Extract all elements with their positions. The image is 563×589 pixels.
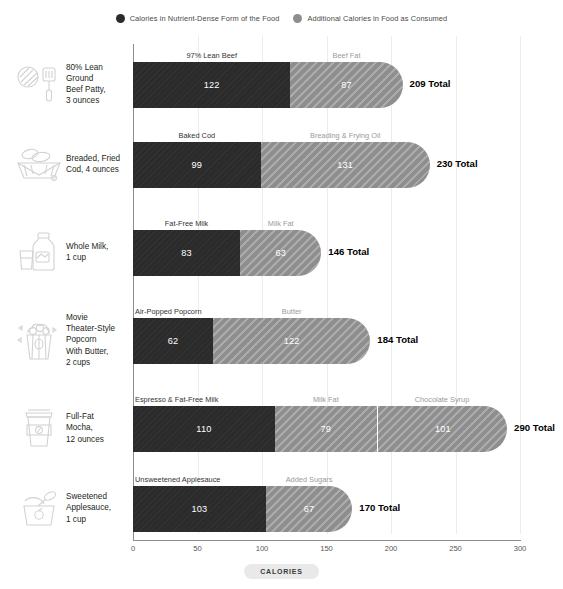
row-food-label: SweetenedApplesauce,1 cup bbox=[66, 468, 130, 548]
row-total-label: 209 Total bbox=[410, 78, 451, 89]
row-food-label: Whole Milk,1 cup bbox=[66, 212, 130, 292]
bar-segment[interactable]: 79 bbox=[275, 406, 377, 452]
stacked-bar[interactable]: 12287 bbox=[133, 62, 403, 108]
x-axis-title-label: CALORIES bbox=[244, 564, 319, 579]
segment-caption: Baked Cod bbox=[179, 131, 216, 140]
x-axis-title: CALORIES bbox=[0, 564, 563, 579]
segment-value: 87 bbox=[341, 80, 352, 90]
stacked-bar[interactable]: 10367 bbox=[133, 486, 352, 532]
chart-row: Breaded, FriedCod, 4 ouncesBaked CodBrea… bbox=[0, 124, 563, 204]
bar-segment[interactable]: 131 bbox=[261, 142, 430, 188]
segment-caption: Butter bbox=[282, 307, 302, 316]
segment-value: 131 bbox=[337, 160, 353, 170]
chart-row: Whole Milk,1 cupFat-Free MilkMilk Fat836… bbox=[0, 212, 563, 292]
segment-caption: Breading & Frying Oil bbox=[310, 131, 380, 140]
segment-value: 103 bbox=[191, 504, 207, 514]
bar-segment[interactable]: 83 bbox=[133, 230, 240, 276]
row-total-label: 184 Total bbox=[377, 334, 418, 345]
segment-value: 99 bbox=[192, 160, 203, 170]
bar-segment[interactable]: 99 bbox=[133, 142, 261, 188]
bar-segment[interactable]: 63 bbox=[240, 230, 321, 276]
legend-item-nutrient-dense: Calories in Nutrient-Dense Form of the F… bbox=[116, 14, 280, 23]
segment-value: 122 bbox=[204, 80, 220, 90]
segment-value: 79 bbox=[321, 424, 332, 434]
stacked-bar[interactable]: 8363 bbox=[133, 230, 321, 276]
segment-value: 63 bbox=[275, 248, 286, 258]
bar-segment[interactable]: 110 bbox=[133, 406, 275, 452]
row-food-label: Full-FatMocha,12 ounces bbox=[66, 388, 130, 468]
bar-segment[interactable]: 122 bbox=[133, 62, 290, 108]
popcorn-bucket-icon bbox=[12, 300, 66, 380]
milk-jug-glass-icon bbox=[12, 212, 66, 292]
chart-legend: Calories in Nutrient-Dense Form of the F… bbox=[0, 14, 563, 23]
row-food-label: MovieTheater-StylePopcornWith Butter,2 c… bbox=[66, 300, 130, 380]
legend-label: Additional Calories in Food as Consumed bbox=[307, 14, 447, 23]
chart-row: Full-FatMocha,12 ouncesEspresso & Fat-Fr… bbox=[0, 388, 563, 468]
segment-value: 83 bbox=[181, 248, 192, 258]
chart-row: 80% LeanGroundBeef Patty,3 ounces97% Lea… bbox=[0, 44, 563, 124]
applesauce-bowl-spoon-icon bbox=[12, 468, 66, 548]
bar-segment[interactable]: 103 bbox=[133, 486, 266, 532]
fried-fish-basket-icon bbox=[12, 124, 66, 204]
row-food-label: Breaded, FriedCod, 4 ounces bbox=[66, 124, 130, 204]
segment-value: 110 bbox=[196, 424, 211, 434]
beef-patty-spatula-icon bbox=[12, 44, 66, 124]
segment-caption: Beef Fat bbox=[333, 51, 361, 60]
row-total-label: 290 Total bbox=[514, 422, 555, 433]
chart-row: MovieTheater-StylePopcornWith Butter,2 c… bbox=[0, 300, 563, 380]
segment-caption: 97% Lean Beef bbox=[186, 51, 237, 60]
bar-segment[interactable]: 122 bbox=[213, 318, 370, 364]
segment-caption: Chocolate Syrup bbox=[415, 395, 470, 404]
row-food-label: 80% LeanGroundBeef Patty,3 ounces bbox=[66, 44, 130, 124]
chart-row: SweetenedApplesauce,1 cupUnsweetened App… bbox=[0, 468, 563, 548]
segment-caption: Added Sugars bbox=[286, 475, 333, 484]
legend-label: Calories in Nutrient-Dense Form of the F… bbox=[130, 14, 280, 23]
stacked-bar[interactable]: 62122 bbox=[133, 318, 370, 364]
bar-segment[interactable]: 67 bbox=[266, 486, 352, 532]
row-total-label: 146 Total bbox=[328, 246, 369, 257]
stacked-bar[interactable]: 11079101 bbox=[133, 406, 507, 452]
light-circle-icon bbox=[293, 14, 302, 23]
row-total-label: 230 Total bbox=[437, 158, 478, 169]
segment-value: 67 bbox=[304, 504, 315, 514]
bar-segment[interactable]: 62 bbox=[133, 318, 213, 364]
segment-caption: Milk Fat bbox=[313, 395, 339, 404]
bar-segment[interactable]: 101 bbox=[377, 406, 507, 452]
coffee-cup-icon bbox=[12, 388, 66, 468]
row-total-label: 170 Total bbox=[359, 502, 400, 513]
bar-segment[interactable]: 87 bbox=[290, 62, 402, 108]
stacked-bar[interactable]: 99131 bbox=[133, 142, 430, 188]
segment-value: 122 bbox=[284, 336, 300, 346]
segment-caption: Unsweetened Applesauce bbox=[135, 475, 220, 484]
segment-caption: Air-Popped Popcorn bbox=[135, 307, 202, 316]
segment-value: 101 bbox=[435, 424, 451, 434]
segment-caption: Fat-Free Milk bbox=[165, 219, 209, 228]
segment-value: 62 bbox=[168, 336, 179, 346]
calories-stacked-bar-chart: 050100150200250300 80% LeanGroundBeef Pa… bbox=[0, 36, 563, 544]
segment-caption: Milk Fat bbox=[268, 219, 294, 228]
segment-caption: Espresso & Fat-Free Milk bbox=[135, 395, 218, 404]
dark-circle-icon bbox=[116, 14, 125, 23]
legend-item-additional-calories: Additional Calories in Food as Consumed bbox=[293, 14, 447, 23]
